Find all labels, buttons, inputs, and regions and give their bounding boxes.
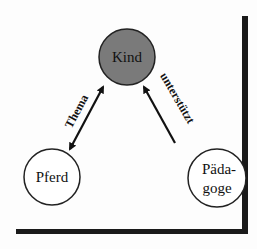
node-label-kind: Kind [112,49,143,65]
diagram-canvas: Thema unterstützt Kind Pferd Päda- goge [0,0,257,249]
edge-label-unterstuetzt: unterstützt [157,70,197,126]
edge-label-thema: Thema [62,92,91,130]
node-label-paedagoge-line2: goge [202,180,232,196]
edge-unterstuetzt: unterstützt [144,70,198,143]
edge-thema: Thema [62,87,103,149]
frame-bottom-bar [16,229,248,234]
node-pferd: Pferd [24,149,80,205]
frame-right-bar [242,16,248,234]
node-kind: Kind [99,29,155,85]
node-paedagoge: Päda- goge [188,149,246,207]
node-label-pferd: Pferd [36,169,69,185]
node-label-paedagoge-line1: Päda- [202,161,236,177]
